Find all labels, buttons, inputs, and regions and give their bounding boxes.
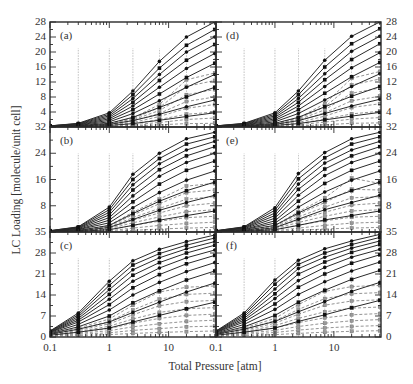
- filled-circle-marker: [131, 97, 135, 101]
- filled-square-marker: [323, 199, 327, 203]
- filled-square-marker: [297, 224, 301, 228]
- y-tick-label: 16: [386, 173, 398, 185]
- panel-label: (f): [226, 239, 237, 252]
- filled-circle-marker: [185, 137, 189, 141]
- y-tick-label: 4: [386, 105, 392, 117]
- filled-square-marker: [158, 199, 162, 203]
- y-tick-label: 12: [386, 75, 397, 87]
- filled-square-marker: [323, 118, 327, 122]
- filled-circle-marker: [323, 247, 327, 251]
- filled-circle-marker: [185, 67, 189, 71]
- filled-square-marker: [107, 293, 111, 297]
- open-marker: [158, 224, 161, 227]
- filled-circle-marker: [323, 98, 327, 102]
- filled-square-marker: [131, 224, 135, 228]
- filled-square-marker: [185, 278, 189, 282]
- filled-square-marker: [297, 122, 301, 126]
- filled-square-marker: [323, 251, 327, 255]
- x-tick-label: 10: [163, 341, 175, 353]
- filled-square-marker: [107, 303, 111, 307]
- filled-square-marker: [131, 200, 135, 204]
- filled-circle-marker: [131, 218, 135, 222]
- open-marker: [158, 322, 161, 325]
- filled-square-marker: [131, 100, 135, 104]
- filled-square-marker: [350, 306, 354, 310]
- open-marker: [323, 322, 326, 325]
- filled-square-marker: [158, 168, 162, 172]
- filled-circle-marker: [350, 34, 354, 38]
- filled-circle-marker: [350, 201, 354, 205]
- open-marker: [350, 222, 353, 225]
- open-marker: [323, 316, 326, 319]
- filled-circle-marker: [323, 174, 327, 178]
- open-marker: [323, 224, 326, 227]
- filled-circle-marker: [107, 297, 111, 301]
- filled-square-marker: [273, 302, 277, 306]
- filled-square-marker: [158, 261, 162, 265]
- filled-square-marker: [273, 314, 277, 318]
- filled-square-marker: [107, 314, 111, 318]
- filled-circle-marker: [323, 255, 327, 259]
- filled-circle-marker: [185, 35, 189, 39]
- filled-square-marker: [273, 292, 277, 296]
- filled-circle-marker: [158, 112, 162, 116]
- filled-circle-marker: [323, 161, 327, 165]
- filled-circle-marker: [107, 279, 111, 283]
- filled-square-marker: [131, 188, 135, 192]
- filled-circle-marker: [297, 193, 301, 197]
- filled-square-marker: [323, 91, 327, 95]
- filled-circle-marker: [131, 293, 135, 297]
- panel-f: [214, 233, 381, 338]
- filled-square-marker: [131, 93, 135, 97]
- filled-square-marker: [350, 114, 354, 118]
- y-tick-label: 20: [386, 45, 398, 57]
- open-marker: [131, 329, 134, 332]
- filled-square-marker: [158, 106, 162, 110]
- filled-square-marker: [185, 115, 189, 119]
- filled-square-marker: [350, 154, 354, 158]
- open-marker: [185, 210, 188, 213]
- open-marker: [185, 300, 188, 303]
- panel-c: [48, 233, 216, 338]
- y-axis-title: LC Loading [molecule/unit cell]: [10, 105, 23, 254]
- filled-circle-marker: [131, 206, 135, 210]
- x-tick-label: 10: [328, 341, 340, 353]
- open-marker: [350, 118, 353, 121]
- filled-square-marker: [107, 284, 111, 288]
- open-marker: [297, 329, 300, 332]
- filled-circle-marker: [185, 148, 189, 152]
- y-tick-label: 4: [41, 105, 47, 117]
- x-axis-title: Total Pressure [atm]: [168, 360, 261, 372]
- filled-square-marker: [158, 218, 162, 222]
- open-marker: [323, 326, 326, 329]
- open-marker: [131, 332, 134, 335]
- filled-square-marker: [185, 243, 189, 247]
- panel-e: [214, 130, 381, 233]
- panel-label: (a): [60, 29, 73, 42]
- filled-circle-marker: [323, 72, 327, 76]
- filled-square-marker: [323, 272, 327, 276]
- filled-circle-marker: [323, 190, 327, 194]
- filled-circle-marker: [297, 310, 301, 314]
- y-tick-label: 24: [386, 146, 398, 158]
- open-marker: [350, 299, 353, 302]
- open-marker: [323, 297, 326, 300]
- plot-area: [214, 233, 381, 338]
- y-tick-label: 28: [35, 15, 47, 27]
- filled-circle-marker: [350, 85, 354, 89]
- filled-square-marker: [185, 154, 189, 158]
- filled-circle-marker: [158, 174, 162, 178]
- filled-square-marker: [131, 178, 135, 182]
- open-marker: [297, 332, 300, 335]
- filled-square-marker: [185, 189, 189, 193]
- filled-circle-marker: [273, 308, 277, 312]
- filled-circle-marker: [350, 255, 354, 259]
- open-marker: [131, 325, 134, 328]
- filled-circle-marker: [185, 85, 189, 89]
- filled-circle-marker: [131, 112, 135, 116]
- y-tick-label: 16: [35, 173, 47, 185]
- open-marker: [185, 198, 188, 201]
- filled-circle-marker: [185, 105, 189, 109]
- plot-area: [48, 130, 216, 233]
- y-tick-label: 14: [386, 288, 398, 300]
